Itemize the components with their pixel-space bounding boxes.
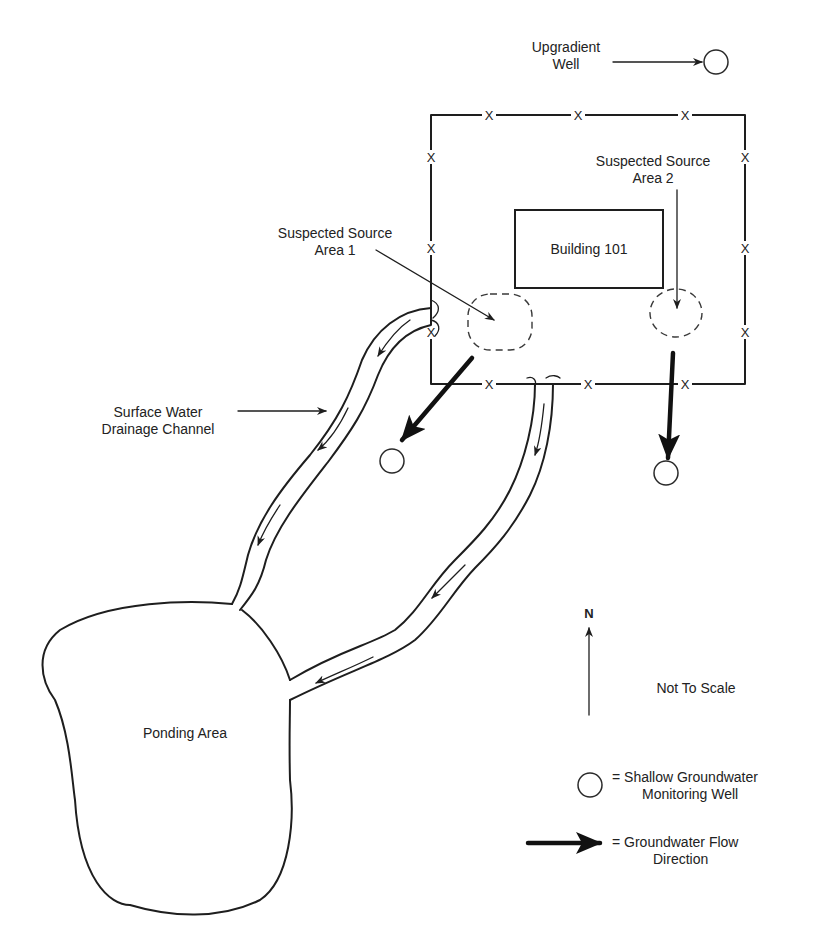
fence-x-icon: X xyxy=(741,150,750,165)
drainage-channel-1 xyxy=(232,300,439,610)
fence-x-icon: X xyxy=(741,325,750,340)
fence-x-icon: X xyxy=(485,108,494,123)
source-area-2-label: Suspected Source Area 2 xyxy=(596,153,711,186)
fence-x-icon: X xyxy=(485,377,494,392)
drainage-channel-label: Surface Water Drainage Channel xyxy=(102,404,215,437)
upgradient-well-icon xyxy=(704,50,728,74)
source-area-1-boundary xyxy=(468,294,532,350)
svg-text:Well: Well xyxy=(553,56,580,72)
legend-well-text: Monitoring Well xyxy=(642,786,738,802)
drainage-channel-2 xyxy=(290,376,560,700)
svg-text:Upgradient: Upgradient xyxy=(532,39,601,55)
legend-flow-text: Direction xyxy=(653,851,708,867)
fence-x-icon: X xyxy=(427,150,436,165)
legend: = Shallow Groundwater Monitoring Well = … xyxy=(528,769,758,867)
svg-text:Suspected Source: Suspected Source xyxy=(278,225,393,241)
source-area-2-boundary xyxy=(650,289,702,337)
fence-x-icon: X xyxy=(427,241,436,256)
monitoring-well-icon xyxy=(654,461,678,485)
fence-x-icon: X xyxy=(584,377,593,392)
svg-text:Drainage Channel: Drainage Channel xyxy=(102,421,215,437)
legend-flow-text: = Groundwater Flow xyxy=(612,834,739,850)
scale-note: Not To Scale xyxy=(656,680,735,696)
svg-text:Area 1: Area 1 xyxy=(314,242,355,258)
groundwater-flow-arrow xyxy=(402,358,472,440)
ponding-area-boundary xyxy=(43,602,292,914)
north-label: N xyxy=(584,606,593,621)
fence-x-icon: X xyxy=(681,108,690,123)
source-area-1-label: Suspected Source Area 1 xyxy=(278,225,393,258)
svg-text:Suspected Source: Suspected Source xyxy=(596,153,711,169)
legend-well-icon xyxy=(578,773,602,797)
fence-x-icon: X xyxy=(681,377,690,392)
fence-x-icon: X xyxy=(741,241,750,256)
groundwater-flow-arrow xyxy=(668,353,673,458)
svg-text:Area 2: Area 2 xyxy=(632,170,673,186)
upgradient-well-label: Upgradient Well xyxy=(532,39,601,72)
fence-x-icon: X xyxy=(427,325,436,340)
site-map: Upgradient Well X X X X X X X X X X X X xyxy=(0,0,818,947)
legend-well-text: = Shallow Groundwater xyxy=(612,769,758,785)
source-area-1-pointer xyxy=(376,250,494,320)
building-label: Building 101 xyxy=(550,241,627,257)
monitoring-well-icon xyxy=(380,449,404,473)
svg-text:Surface Water: Surface Water xyxy=(114,404,203,420)
fence-x-icon: X xyxy=(574,108,583,123)
ponding-area-label: Ponding Area xyxy=(143,725,227,741)
